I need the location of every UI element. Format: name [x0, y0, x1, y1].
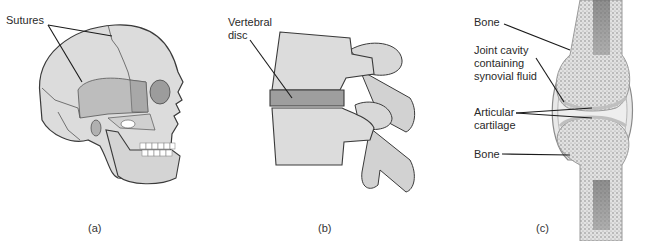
caption-b: (b) — [318, 222, 331, 234]
panel-synovial-joint: Bone Joint cavity containing synovial fl… — [420, 0, 649, 241]
caption-c: (c) — [536, 222, 549, 234]
label-bone-lower: Bone — [474, 148, 500, 161]
label-articular-cartilage: Articular cartilage — [474, 106, 516, 132]
caption-a: (a) — [88, 222, 101, 234]
skull-illustration — [0, 0, 220, 241]
label-sutures: Sutures — [6, 14, 44, 27]
label-bone-upper: Bone — [474, 16, 500, 29]
label-joint-cavity: Joint cavity containing synovial fluid — [474, 44, 537, 83]
panel-skull: Sutures (a) — [0, 0, 220, 241]
label-vertebral-disc: Vertebral disc — [228, 16, 272, 42]
synovial-joint-illustration — [420, 0, 649, 241]
panel-vertebrae: Vertebral disc (b) — [220, 0, 420, 241]
